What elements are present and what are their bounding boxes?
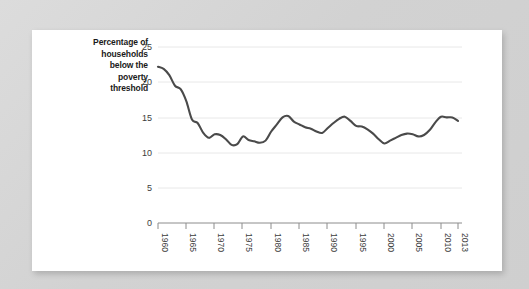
x-tick-label-1960: 1960: [160, 233, 170, 252]
y-tick-label-25: 25: [142, 42, 152, 52]
x-tick-label-1990: 1990: [329, 233, 339, 252]
chart-card: Percentage of households below the pover…: [32, 30, 502, 271]
x-axis-tick-labels: 1960 1965 1970 1975 1980 1985 1990 1995 …: [160, 233, 470, 252]
plot-area: 25 20 15 10 5 0: [32, 30, 502, 271]
x-tick-label-2013: 2013: [460, 233, 470, 252]
y-tick-label-5: 5: [147, 183, 152, 193]
x-tick-label-2010: 2010: [443, 233, 453, 252]
y-tick-label-10: 10: [142, 148, 152, 158]
x-tick-label-1970: 1970: [216, 233, 226, 252]
x-tick-label-1975: 1975: [244, 233, 254, 252]
x-axis-ticks: [158, 223, 458, 229]
x-tick-label-2000: 2000: [386, 233, 396, 252]
y-tick-label-15: 15: [142, 113, 152, 123]
x-tick-label-1965: 1965: [188, 233, 198, 252]
poverty-rate-line-chart: Percentage of households below the pover…: [32, 30, 502, 271]
x-tick-label-1980: 1980: [273, 233, 283, 252]
gridlines: [158, 47, 462, 188]
x-tick-label-1995: 1995: [358, 233, 368, 252]
y-axis-tick-labels: 25 20 15 10 5 0: [142, 42, 152, 228]
x-tick-label-1985: 1985: [301, 233, 311, 252]
data-line-poverty-rate: [158, 67, 458, 146]
y-tick-label-0: 0: [147, 218, 152, 228]
x-tick-label-2005: 2005: [414, 233, 424, 252]
y-tick-label-20: 20: [142, 77, 152, 87]
